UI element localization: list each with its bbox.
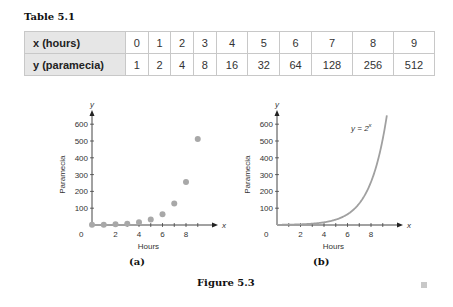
x-tick-label: 6 [345,230,350,239]
end-of-section-icon [421,282,427,288]
panel-a-caption: (a) [129,256,145,267]
exponential-curve [277,115,387,224]
x-axis-label: Hours [323,242,344,251]
y-axis-letter: y [274,100,280,109]
x-tick-label: 4 [322,230,327,239]
x-axis-letter: x [406,221,412,230]
figure-title: Figure 5.3 [197,277,453,288]
y-tick-label: 400 [260,154,274,163]
y-axis-label: Paramecia [243,155,252,194]
panel-b-caption: (b) [313,256,329,267]
x-axis-arrow-icon [397,223,403,228]
y-tick-label: 100 [260,204,274,213]
x-tick-label: 8 [369,230,374,239]
curve-label: y = 2x [350,122,373,133]
y-tick-label: 500 [260,137,274,146]
y-tick-label: 600 [260,120,274,129]
line-chart-b: xy02468100200300400500600HoursParameciay… [0,0,453,307]
x-tick-label: 0 [264,230,269,239]
y-tick-label: 300 [260,171,274,180]
x-tick-label: 2 [298,230,303,239]
y-axis-arrow-icon [275,110,280,116]
y-tick-label: 200 [260,187,274,196]
